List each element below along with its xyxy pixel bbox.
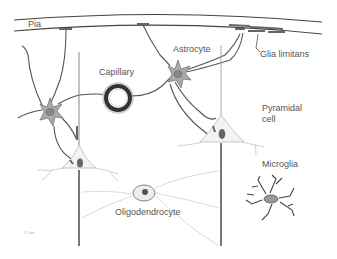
microglia [246, 175, 294, 220]
artist-signature: Z. Cook [24, 231, 35, 235]
right-pyramidal-neuron [178, 45, 264, 246]
capillary-label: Capillary [99, 67, 135, 77]
left-pyramidal-neuron [38, 52, 118, 246]
pia-label: Pia [28, 19, 41, 29]
astrocyte-processes [132, 25, 243, 138]
oligodendrocyte-label: Oligodendrocyte [115, 207, 181, 217]
astrocyte [168, 60, 191, 88]
pyramidal-label-line2: cell [262, 114, 276, 124]
capillary [103, 83, 133, 113]
left-astrocyte-processes [18, 30, 103, 162]
neuroglia-diagram: Pia Capillary [0, 0, 337, 259]
glia-limitans-label: Glia limitans [260, 49, 310, 59]
microglia-label: Microglia [262, 159, 298, 169]
astrocyte-label: Astrocyte [173, 44, 211, 54]
left-astrocyte [40, 98, 63, 126]
pyramidal-label-line1: Pyramidal [262, 103, 302, 113]
